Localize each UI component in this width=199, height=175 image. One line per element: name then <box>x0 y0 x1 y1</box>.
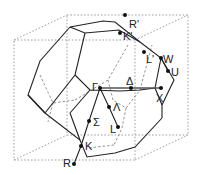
label-k-prime: K' <box>123 30 132 42</box>
label-gamma: Γ <box>92 81 98 93</box>
point-r-prime <box>123 13 127 17</box>
label-l: L <box>110 123 116 135</box>
point-lambda <box>107 105 111 109</box>
label-u: U <box>171 66 179 78</box>
label-k: K <box>85 140 93 152</box>
point-l <box>116 125 120 129</box>
label-l-prime: L' <box>146 53 154 65</box>
label-x: X <box>156 92 164 104</box>
point-x <box>159 86 163 90</box>
label-lambda: Λ <box>113 101 121 113</box>
label-sigma: Σ <box>93 116 100 128</box>
point-k-prime <box>118 31 122 35</box>
label-r-prime: R' <box>129 18 139 30</box>
point-r <box>72 162 76 166</box>
point-u <box>166 69 170 73</box>
label-r: R <box>63 157 71 169</box>
point-gamma <box>98 86 102 90</box>
point-sigma <box>87 119 91 123</box>
label-delta: Δ <box>126 75 134 87</box>
hidden-edges <box>40 45 152 148</box>
label-w: W <box>163 53 174 65</box>
point-k <box>79 144 83 148</box>
brillouin-zone-diagram: R' K' L' W U Γ Δ X Λ L Σ K R <box>0 0 199 175</box>
